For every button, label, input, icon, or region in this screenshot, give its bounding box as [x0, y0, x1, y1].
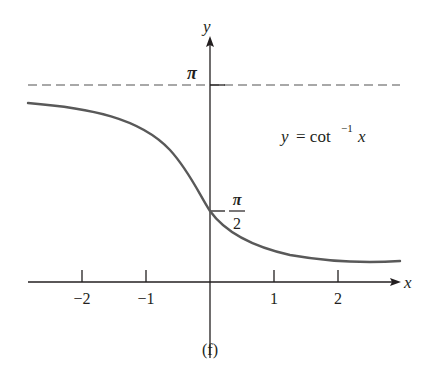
svg-text:π: π [233, 191, 243, 208]
function-label: y = cot −1 x [279, 122, 366, 146]
x-tick-label-neg2: −2 [73, 290, 90, 307]
svg-text:x: x [357, 127, 366, 146]
svg-text:2: 2 [233, 215, 241, 232]
y-axis-label: y [201, 17, 211, 36]
x-tick-label-neg1: −1 [137, 290, 154, 307]
svg-text:y: y [279, 127, 289, 146]
figure-caption: (f) [202, 341, 218, 359]
y-tick-label-pi-over-2: π 2 [229, 191, 245, 232]
x-axis-label: x [403, 273, 412, 292]
x-tick-label-1: 1 [270, 290, 278, 307]
x-tick-label-2: 2 [334, 290, 342, 307]
svg-text:−1: −1 [341, 122, 353, 134]
chart-canvas: y x −2 −1 1 2 π π 2 y = cot −1 x (f) [0, 0, 434, 370]
y-tick-label-pi: π [187, 63, 198, 83]
y-ticks [210, 85, 225, 211]
svg-text:= cot: = cot [296, 127, 331, 146]
